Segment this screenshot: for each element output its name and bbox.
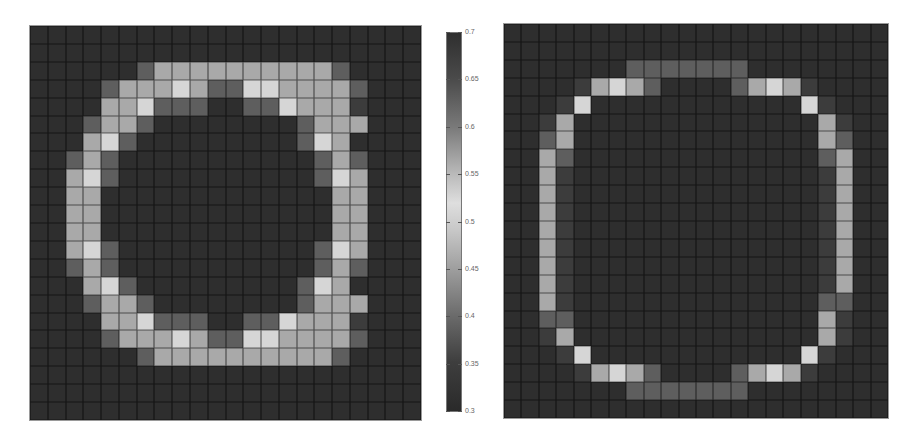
heatmap-cell [539,149,556,167]
heatmap-cell [731,275,748,293]
heatmap-cell [731,149,748,167]
heatmap-cell [66,133,84,151]
heatmap-cell [332,241,350,259]
heatmap-cell [172,313,190,331]
heatmap-cell [679,328,696,346]
heatmap-cell [208,205,226,223]
heatmap-cell [556,328,573,346]
heatmap-cell [243,241,261,259]
heatmap-cell [574,24,591,42]
heatmap-cell [314,313,332,331]
heatmap-cell [661,257,678,275]
heatmap-cell [243,295,261,313]
heatmap-cell [766,346,783,364]
heatmap-cell [713,149,730,167]
heatmap-cell [748,131,765,149]
heatmap-cell [119,187,137,205]
heatmap-cell [48,330,66,348]
heatmap-cell [696,346,713,364]
heatmap-cell [801,78,818,96]
heatmap-cell [243,313,261,331]
colorbar-tick-mark [446,316,450,317]
heatmap-cell [30,223,48,241]
heatmap-cell [403,384,421,402]
heatmap-cell [261,295,279,313]
heatmap-cell [521,293,538,311]
heatmap-cell [154,402,172,420]
heatmap-cell [297,313,315,331]
heatmap-cell [66,169,84,187]
heatmap-cell [713,42,730,60]
heatmap-cell [314,366,332,384]
heatmap-cell [261,313,279,331]
heatmap-cell [644,346,661,364]
heatmap-cell [801,364,818,382]
heatmap-cell [836,78,853,96]
heatmap-cell [644,114,661,132]
heatmap-cell [836,328,853,346]
heatmap-cell [332,366,350,384]
heatmap-cell [243,384,261,402]
heatmap-cell [314,295,332,313]
heatmap-cell [748,293,765,311]
heatmap-cell [403,313,421,331]
heatmap-cell [30,277,48,295]
heatmap-cell [350,151,368,169]
heatmap-cell [261,259,279,277]
heatmap-cell [243,44,261,62]
heatmap-cell [154,259,172,277]
heatmap-cell [748,400,765,418]
heatmap-cell [243,151,261,169]
heatmap-cell [801,149,818,167]
heatmap-cell [368,187,386,205]
heatmap-cell [261,44,279,62]
heatmap-cell [731,346,748,364]
heatmap-cell [279,223,297,241]
heatmap-cell [871,364,888,382]
heatmap-cell [119,348,137,366]
heatmap-cell [574,114,591,132]
heatmap-cell [574,328,591,346]
heatmap-cell [30,169,48,187]
heatmap-cell [385,277,403,295]
heatmap-cell [521,149,538,167]
heatmap-cell [591,400,608,418]
heatmap-cell [836,203,853,221]
heatmap-cell [48,169,66,187]
heatmap-cell [297,384,315,402]
heatmap-cell [66,26,84,44]
heatmap-cell [609,382,626,400]
heatmap-cell [297,259,315,277]
heatmap-cell [190,26,208,44]
heatmap-cell [243,277,261,295]
heatmap-cell [226,98,244,116]
heatmap-cell [101,241,119,259]
heatmap-cell [172,169,190,187]
heatmap-cell [48,80,66,98]
heatmap-cell [696,400,713,418]
heatmap-cell [574,60,591,78]
heatmap-cell [713,275,730,293]
colorbar-tick-label: 0.65 [465,75,479,83]
heatmap-cell [679,42,696,60]
heatmap-cell [661,311,678,329]
heatmap-cell [154,223,172,241]
heatmap-cell [731,328,748,346]
heatmap-cell [83,26,101,44]
heatmap-cell [766,400,783,418]
heatmap-cell [30,187,48,205]
heatmap-cell [609,203,626,221]
heatmap-cell [154,277,172,295]
heatmap-cell [661,328,678,346]
heatmap-cell [871,114,888,132]
heatmap-cell [261,26,279,44]
heatmap-cell [172,62,190,80]
heatmap-cell [731,221,748,239]
heatmap-cell [385,26,403,44]
heatmap-cell [626,346,643,364]
heatmap-cell [521,203,538,221]
heatmap-cell [574,203,591,221]
heatmap-cell [713,131,730,149]
heatmap-cell [261,366,279,384]
heatmap-cell [853,42,870,60]
